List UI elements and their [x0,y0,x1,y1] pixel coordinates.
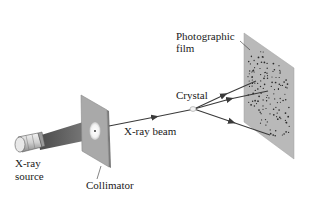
diffraction-spot [260,123,261,124]
diffraction-spot [269,113,270,114]
diffraction-spot [263,77,265,79]
diffraction-spot [271,76,272,77]
diffraction-spot [282,100,284,102]
diffraction-spot [251,85,252,86]
diffraction-spot [277,102,278,103]
diffraction-spot [259,111,260,112]
diffraction-spot [288,132,289,133]
diffraction-spot [260,86,261,87]
diffraction-spot [263,56,264,57]
diffraction-spot [264,84,266,86]
diffraction-spot [271,82,273,84]
collimator-label: Collimator [86,179,134,191]
diffraction-spot [266,63,267,64]
diffraction-spot [257,63,259,65]
diffraction-spot [260,80,261,81]
diffraction-spot [286,122,287,123]
diffraction-spot [285,120,286,121]
diffraction-spot [249,73,250,74]
crystal-icon [190,107,196,112]
diffraction-spot [265,108,266,109]
diffraction-spot [274,135,276,137]
diffraction-spot [258,57,260,59]
diffraction-spot [273,109,275,111]
diffraction-spot [261,113,262,114]
diffraction-spot [265,119,266,120]
diffraction-spot [266,97,267,98]
diffraction-spot [270,133,272,135]
diffraction-spot [266,73,267,74]
diffraction-spot [258,95,260,97]
diffraction-spot [279,77,280,78]
diffraction-spot [285,131,287,133]
diffraction-spot [251,71,252,72]
diffraction-spot [282,85,283,86]
diffraction-spot [285,86,287,88]
diffraction-spot [280,85,281,86]
diffraction-spot [262,109,263,110]
diffraction-spot [278,88,279,89]
diffraction-spot [249,80,250,81]
diffraction-spot [264,76,265,77]
diffraction-spot [265,72,266,73]
diffraction-spot [285,79,287,81]
xray-beam-label: X-ray beam [124,125,177,137]
diffraction-spot [271,86,272,87]
diffraction-spot [264,62,266,64]
diffraction-spot [263,51,264,52]
diffraction-spot [285,99,287,101]
diffraction-spot [254,105,255,106]
diffraction-spot [252,76,253,77]
diffraction-spot [273,63,275,65]
diffraction-spot [261,61,263,63]
collimator-leader-line [97,166,101,179]
diffraction-spot [274,69,276,71]
diffraction-spot [283,81,285,83]
diffraction-spot [260,74,261,75]
diffraction-spot [257,83,258,84]
diffraction-spot [275,130,277,132]
crystal-label: Crystal [176,89,208,101]
diffraction-spot [249,70,250,71]
diffraction-spot [278,83,280,85]
diffraction-spot [280,98,281,99]
diffraction-spot [252,70,253,71]
diffraction-spot [262,99,263,100]
diffraction-spot [267,78,269,80]
diffraction-spot [275,107,276,108]
diffraction-spot [266,100,267,101]
diffraction-spot [270,104,271,105]
diffraction-spot [274,98,275,99]
diffraction-spot [287,116,289,118]
xray-diffraction-diagram: X-ray source Collimator X-ray beam Cryst… [0,0,310,198]
diffraction-spot [287,83,289,85]
diffraction-spot [257,88,259,90]
diffraction-spot [249,86,250,87]
diffraction-spot [273,114,275,116]
diffraction-spot [275,82,277,84]
diffraction-spot [289,126,290,127]
diffraction-spot [256,103,257,104]
diffraction-spot [255,90,256,91]
diffraction-spot [274,89,275,90]
xray-source-label-line1: X-ray [15,157,41,169]
xray-beam-line-2 [155,110,192,118]
diffraction-spot [252,79,253,80]
diffraction-spot [287,87,288,88]
diffraction-spot [279,70,280,71]
diffraction-spot [272,71,273,72]
film-label-line2: film [176,42,195,54]
diffraction-spot [284,94,285,95]
diffraction-spot [263,88,264,89]
diffraction-spot [250,104,252,106]
diffraction-spot [254,67,255,68]
diffraction-spot [279,73,280,74]
diffraction-spot [272,134,274,136]
diffraction-spot [250,63,251,64]
diffraction-spot [282,134,283,135]
diffraction-spot [279,117,281,119]
diffraction-spot [277,118,279,120]
diffraction-spot [285,112,287,114]
diffraction-spot [278,65,279,66]
diffraction-spot [278,109,280,111]
